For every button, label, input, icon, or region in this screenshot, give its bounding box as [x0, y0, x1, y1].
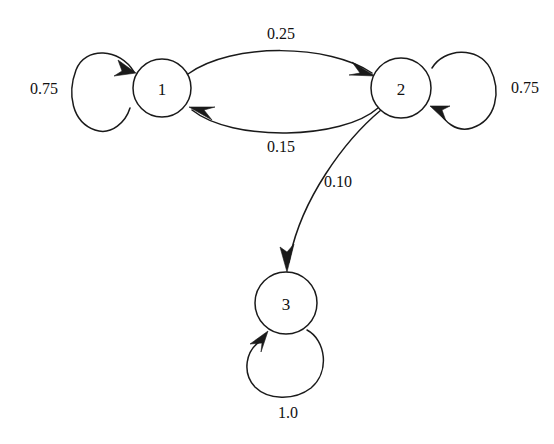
- edge-node1-to-node2-path: [188, 51, 372, 74]
- edge-node2-to-node3: [280, 110, 381, 272]
- self-loop-node-2-arrowhead: [430, 106, 450, 121]
- edge-weight-node2-to-node1: 0.15: [267, 138, 295, 155]
- edge-node1-to-node2-arrowhead: [349, 62, 375, 76]
- node-2[interactable]: 2: [371, 58, 431, 118]
- edge-node2-to-node1-arrowhead: [189, 107, 215, 120]
- node-1[interactable]: 1: [133, 59, 191, 117]
- self-loop-node-2-path: [432, 52, 496, 129]
- edge-node2-to-node3-arrowhead: [280, 244, 294, 272]
- node-3-label: 3: [282, 295, 291, 314]
- edge-weight-node2-to-node3: 0.10: [324, 173, 352, 190]
- edge-node2-to-node1-path: [192, 108, 378, 133]
- self-loop-node-3: [247, 330, 323, 397]
- node-2-label: 2: [397, 80, 406, 99]
- edge-node2-to-node1: [189, 107, 378, 133]
- self-loop-node-1: [72, 53, 136, 131]
- node-1-label: 1: [158, 80, 167, 99]
- self-loop-node-2: [430, 52, 496, 129]
- edge-weight-node1-to-node2: 0.25: [267, 25, 295, 42]
- node-3[interactable]: 3: [255, 272, 317, 334]
- state-transition-diagram: 1 2 3 0.75 0.25 0.15 0.75 0.10 1.0: [0, 0, 554, 444]
- edge-weight-loop-node-3: 1.0: [278, 404, 298, 421]
- diagram-canvas-svg: 1 2 3 0.75 0.25 0.15 0.75 0.10 1.0: [0, 0, 554, 444]
- edge-node1-to-node2: [188, 51, 375, 76]
- edge-weight-loop-node-1: 0.75: [30, 80, 58, 97]
- edge-weight-loop-node-2: 0.75: [511, 79, 539, 96]
